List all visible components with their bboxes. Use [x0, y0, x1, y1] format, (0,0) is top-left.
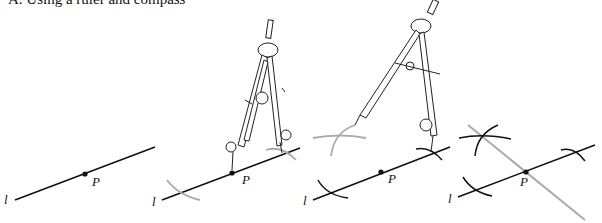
point-p — [378, 169, 383, 174]
panel-1: P l — [4, 147, 155, 207]
panel-4: P l — [448, 125, 595, 220]
construction-arc — [331, 125, 355, 156]
point-label: P — [519, 174, 528, 189]
line-label: l — [448, 191, 452, 206]
panel-3: P l — [303, 0, 450, 208]
compass-icon — [226, 20, 291, 170]
line-label: l — [152, 194, 156, 209]
point-label: P — [241, 172, 250, 187]
point-label: P — [387, 171, 396, 186]
point-label: P — [91, 174, 100, 189]
compass-icon — [355, 0, 440, 152]
line-label: l — [4, 192, 8, 207]
panel-2: P l — [152, 20, 300, 209]
line-label: l — [303, 193, 307, 208]
point-p — [82, 171, 87, 176]
construction-diagram: P l P l P l — [0, 0, 602, 223]
point-p — [229, 170, 234, 175]
